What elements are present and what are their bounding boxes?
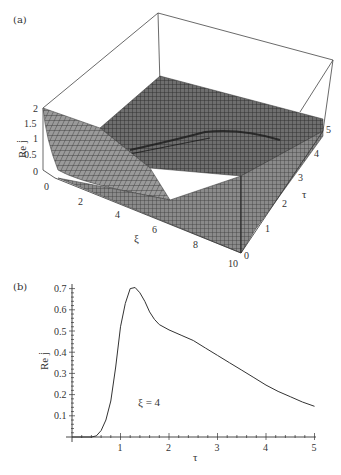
- xi-tick: 10: [228, 258, 238, 269]
- surface-plot: 2 1.5 1 0.5 0 0 Re j̇ 2 4 6 8 10 ξ 0 1 2…: [0, 0, 341, 270]
- x-tick-label: 1: [118, 442, 123, 453]
- tau-tick: 0: [244, 250, 249, 261]
- z-axis-title: Re j̇: [16, 140, 28, 158]
- tau-tick: 5: [326, 124, 331, 135]
- xi-tick: 4: [115, 209, 120, 220]
- line-chart-axes: [66, 284, 316, 442]
- y-tick-label: 0.1: [54, 410, 67, 421]
- y-tick-label: 0.7: [54, 283, 67, 294]
- x-tick-label: 4: [263, 442, 268, 453]
- y-axis-title: Re j̇: [38, 352, 50, 370]
- annotation-xi-4: ξ = 4: [138, 396, 161, 409]
- panel-b-label: (b): [13, 281, 27, 292]
- tau-axis-title: τ: [302, 188, 307, 200]
- z-tick: 0: [33, 166, 38, 177]
- origin-label: 0: [44, 181, 49, 192]
- x-tick-label: 5: [312, 442, 317, 453]
- x-tick-label: 3: [215, 442, 220, 453]
- x-tick-label: 2: [166, 442, 171, 453]
- x-axis-title: τ: [193, 451, 198, 463]
- tau-tick: 2: [282, 198, 287, 209]
- z-tick: 1.5: [24, 118, 37, 129]
- tau-tick: 3: [298, 172, 303, 183]
- z-tick: 1: [33, 133, 38, 144]
- z-tick: 2: [33, 103, 38, 114]
- y-tick-label: 0.2: [54, 389, 67, 400]
- y-tick-label: 0.4: [54, 347, 67, 358]
- tau-tick: 4: [314, 148, 319, 159]
- y-tick-label: 0.5: [54, 326, 67, 337]
- y-tick-label: 0.6: [54, 304, 67, 315]
- xi-axis-title: ξ: [134, 232, 139, 245]
- xi-tick: 8: [193, 239, 198, 250]
- y-tick-label: 0.3: [54, 368, 67, 379]
- xi-tick: 6: [152, 224, 157, 235]
- xi-tick: 2: [78, 196, 83, 207]
- tau-tick: 1: [265, 223, 270, 234]
- data-series-xi-4: [72, 288, 315, 438]
